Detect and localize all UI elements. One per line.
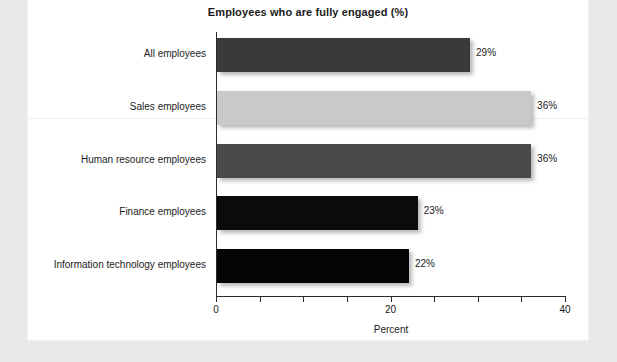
x-tick	[565, 297, 566, 302]
category-label: Human resource employees	[0, 154, 206, 165]
x-tick-label: 0	[213, 304, 219, 315]
bar[interactable]	[217, 38, 470, 72]
bar-value-label: 29%	[476, 47, 496, 58]
x-tick	[434, 297, 435, 302]
x-tick-label: 20	[385, 304, 396, 315]
bar[interactable]	[217, 196, 418, 230]
x-tick	[478, 297, 479, 302]
x-tick	[260, 297, 261, 302]
bar[interactable]	[217, 91, 531, 125]
bar[interactable]	[217, 144, 531, 178]
plot-area: 02040 29%36%36%23%22% All employeesSales…	[216, 32, 565, 296]
category-label: Finance employees	[0, 206, 206, 217]
bar-value-label: 22%	[415, 258, 435, 269]
bar-value-label: 36%	[537, 153, 557, 164]
category-label: All employees	[0, 48, 206, 59]
bar-row: 23%	[216, 190, 565, 243]
x-tick-label: 40	[559, 304, 570, 315]
chart-title: Employees who are fully engaged (%)	[28, 6, 588, 18]
category-label: Information technology employees	[0, 259, 206, 270]
bar-row: 36%	[216, 85, 565, 138]
x-tick	[521, 297, 522, 302]
x-tick	[216, 297, 217, 302]
bar-row: 36%	[216, 138, 565, 191]
category-label: Sales employees	[0, 101, 206, 112]
bar-row: 29%	[216, 32, 565, 85]
bar-value-label: 23%	[424, 205, 444, 216]
bar-row: 22%	[216, 243, 565, 296]
x-tick	[347, 297, 348, 302]
category-labels: All employeesSales employeesHuman resour…	[0, 32, 206, 296]
bar-value-label: 36%	[537, 100, 557, 111]
chart-card: Employees who are fully engaged (%) 0204…	[28, 0, 588, 340]
x-tick	[303, 297, 304, 302]
x-tick	[391, 297, 392, 302]
chart-page: Employees who are fully engaged (%) 0204…	[0, 0, 617, 362]
x-axis-label: Percent	[216, 324, 566, 335]
bar[interactable]	[217, 249, 409, 283]
